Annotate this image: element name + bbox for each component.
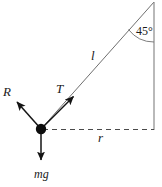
reaction-force-arrow	[17, 102, 41, 129]
force-diagram-figure: R T l r mg 45°	[0, 0, 162, 187]
tension-force-arrow	[41, 97, 74, 130]
label-string-length: l	[91, 49, 95, 62]
label-weight: mg	[34, 168, 49, 180]
label-tension-force: T	[56, 82, 63, 95]
label-radius: r	[98, 131, 103, 144]
label-angle-45: 45°	[136, 25, 153, 37]
string-line-l	[41, 2, 154, 129]
pendulum-bob	[36, 124, 46, 134]
label-reaction-force: R	[3, 85, 11, 98]
